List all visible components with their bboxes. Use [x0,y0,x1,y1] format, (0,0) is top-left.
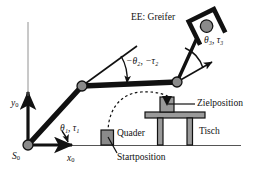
joint2-label: −θ₂, −τ₂ [126,57,158,67]
joint3-label: θ₃, τ₃ [204,36,223,46]
joint-base-icon [23,140,33,150]
joint1-label: θ₁, τ₁ [60,124,79,134]
target-position-label: Zielposition [197,99,243,109]
end-effector-label: EE: Greifer [131,13,175,23]
robot-arm-diagram: EE: Greifer θ₃, τ₃ −θ₂, −τ₂ θ₁, τ₁ y0 x0… [0,0,267,176]
joint-elbow-icon [77,81,87,91]
y-axis-subscript: 0 [15,101,18,108]
table-top [145,112,205,118]
table-leg-left [158,118,164,145]
link-1 [28,86,82,145]
origin-subscript: 0 [17,154,20,161]
table-label: Tisch [199,127,220,137]
block-label: Quader [117,129,145,139]
x-axis-label: x0 [67,154,74,164]
y-axis-label: y0 [11,99,18,109]
x-axis-subscript: 0 [71,156,74,163]
table-leg-right [187,118,193,145]
link-2 [82,82,177,86]
joint-wrist-icon [172,77,182,87]
diagram-canvas [0,0,267,176]
origin-label: S0 [12,152,20,162]
start-position-label: Startposition [117,153,166,163]
